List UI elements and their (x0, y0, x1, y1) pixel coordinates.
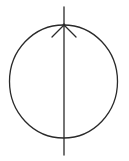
circle-arrow-diagram (0, 0, 129, 161)
arrowhead-right-arm (64, 25, 76, 37)
arrowhead-tip (63, 24, 66, 27)
arrowhead-left-arm (52, 25, 64, 37)
